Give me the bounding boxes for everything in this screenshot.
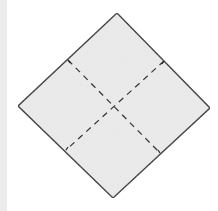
- origami-diagram: [0, 0, 218, 211]
- paper-square: [18, 13, 210, 198]
